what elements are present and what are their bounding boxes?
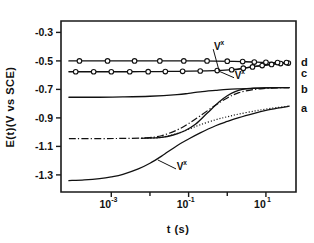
marker-d-5: [205, 59, 210, 64]
marker-c-5: [163, 69, 168, 74]
series-labels: abcd: [301, 56, 308, 114]
marker-c-7: [198, 69, 203, 74]
marker-d-0: [77, 59, 82, 64]
svg-text:-3: -3: [111, 196, 117, 203]
svg-text:1: 1: [267, 196, 271, 203]
marker-c-13: [269, 62, 274, 67]
marker-c-9: [229, 67, 234, 72]
marker-d-8: [252, 60, 257, 65]
chart-canvas: 10-310-1101 -1.3-1.1-0.9-0.7-0.5-0.3 VxV…: [0, 0, 314, 243]
marker-d-10: [275, 60, 280, 65]
y-tick-label-2: -0.9: [35, 112, 53, 124]
marker-c-4: [146, 69, 151, 74]
figure-container: 10-310-1101 -1.3-1.1-0.9-0.7-0.5-0.3 VxV…: [0, 0, 314, 243]
x-axis-title: t (s): [167, 223, 190, 235]
svg-text:x: x: [220, 39, 224, 46]
marker-c-1: [91, 69, 96, 74]
svg-text:10: 10: [177, 198, 189, 210]
svg-text:10: 10: [254, 198, 266, 210]
marker-d-9: [264, 60, 269, 65]
marker-c-11: [250, 65, 255, 70]
svg-text:x: x: [241, 68, 245, 75]
svg-text:x: x: [183, 159, 187, 166]
y-tick-label-0: -1.3: [35, 169, 53, 181]
y-tick-label-1: -1.1: [35, 140, 53, 152]
marker-c-6: [180, 69, 185, 74]
svg-text:10: 10: [99, 198, 111, 210]
marker-c-3: [127, 69, 132, 74]
series-label-c: c: [301, 67, 307, 79]
marker-d-1: [105, 59, 110, 64]
marker-d-11: [284, 60, 289, 65]
marker-d-4: [181, 59, 186, 64]
marker-d-6: [225, 59, 230, 64]
series-label-d: d: [301, 56, 308, 68]
marker-d-7: [240, 59, 245, 64]
series-label-a: a: [301, 102, 308, 114]
marker-c-2: [109, 69, 114, 74]
y-tick-label-3: -0.7: [35, 83, 53, 95]
y-tick-label-5: -0.3: [35, 26, 53, 38]
marker-d-2: [132, 59, 137, 64]
y-axis-title: E(t)(V vs SCE): [4, 67, 16, 148]
marker-d-3: [158, 59, 163, 64]
series-label-b: b: [301, 83, 308, 95]
svg-text:-1: -1: [188, 196, 194, 203]
marker-c-0: [73, 69, 78, 74]
y-tick-label-4: -0.5: [35, 55, 53, 67]
